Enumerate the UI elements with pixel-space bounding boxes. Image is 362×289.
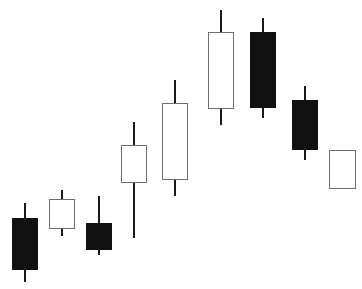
upper-wick [304, 86, 306, 100]
lower-wick [98, 250, 100, 255]
bullish-candle-body [329, 150, 356, 189]
upper-wick [262, 18, 264, 32]
bullish-candle-body [121, 145, 147, 183]
bullish-candle-body [49, 199, 75, 229]
lower-wick [304, 150, 306, 160]
lower-wick [133, 183, 135, 238]
bullish-candle-body [208, 32, 234, 109]
lower-wick [262, 108, 264, 118]
bullish-candle-body [162, 103, 188, 180]
lower-wick [61, 229, 63, 236]
upper-wick [61, 190, 63, 199]
bearish-candle-body [292, 100, 318, 150]
bearish-candle-body [250, 32, 276, 108]
upper-wick [98, 196, 100, 223]
bearish-candle-body [86, 223, 112, 250]
upper-wick [220, 10, 222, 32]
lower-wick [174, 180, 176, 196]
upper-wick [174, 80, 176, 103]
bearish-candle-body [12, 218, 38, 270]
upper-wick [133, 122, 135, 145]
lower-wick [220, 109, 222, 125]
candlestick-chart [0, 0, 362, 289]
lower-wick [24, 270, 26, 282]
upper-wick [24, 203, 26, 218]
